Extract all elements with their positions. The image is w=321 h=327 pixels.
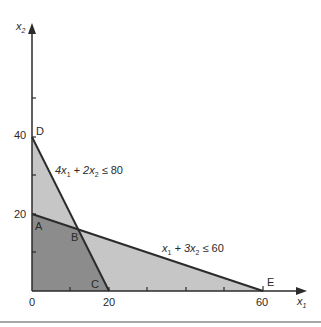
lp-diagram: x2 x1 0 20 60 20 40 D A B C E 4x1 + 2x2 … (0, 0, 321, 327)
x-axis-label: x1 (296, 295, 307, 309)
x-axis-arrow-icon (296, 287, 307, 295)
y-axis-label: x2 (15, 20, 26, 34)
x-tick-label-0: 0 (29, 296, 35, 308)
y-axis-arrow-icon (28, 23, 36, 34)
point-label-D: D (36, 125, 44, 137)
y-tick-label-40: 40 (14, 129, 26, 141)
point-label-A: A (35, 220, 43, 232)
constraint-label-2: x1 + 3x2 ≤ 60 (161, 242, 224, 256)
constraint-label-1: 4x1 + 2x2 ≤ 80 (55, 164, 123, 178)
x-tick-label-60: 60 (256, 296, 268, 308)
point-label-B: B (71, 231, 78, 243)
x-tick-label-20: 20 (103, 296, 115, 308)
y-tick-label-20: 20 (14, 208, 26, 220)
point-label-E: E (267, 276, 274, 288)
point-label-C: C (91, 278, 99, 290)
